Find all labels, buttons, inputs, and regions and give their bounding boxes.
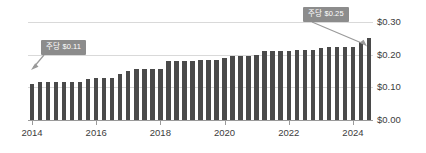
bar — [78, 82, 82, 120]
bar — [102, 78, 106, 120]
x-axis-tick-mark — [32, 120, 33, 125]
bar — [262, 51, 266, 120]
bar — [206, 60, 210, 120]
x-axis-tick-mark — [289, 120, 290, 125]
bar — [319, 48, 323, 120]
y-axis-tick-label: $0.00 — [377, 115, 401, 125]
bar — [94, 78, 98, 120]
x-axis-tick-mark — [96, 120, 97, 125]
bar — [198, 60, 202, 120]
bar — [303, 50, 307, 120]
y-axis: $0.00$0.10$0.20$0.30 — [377, 22, 425, 120]
bar — [174, 61, 178, 120]
bar — [190, 61, 194, 120]
bar — [230, 56, 234, 120]
x-axis-tick-label: 2018 — [150, 128, 171, 138]
bar — [287, 51, 291, 120]
x-axis-line — [28, 120, 373, 121]
y-axis-tick-label: $0.20 — [377, 50, 401, 60]
x-axis-tick-mark — [353, 120, 354, 125]
dividend-per-share-bar-chart: $0.00$0.10$0.20$0.30 2014201620182020202… — [0, 0, 426, 153]
bar — [238, 56, 242, 120]
plot-area — [28, 22, 373, 120]
x-axis-tick-mark — [160, 120, 161, 125]
bar — [343, 47, 347, 121]
x-axis-tick-label: 2016 — [86, 128, 107, 138]
x-axis-tick-label: 2024 — [342, 128, 363, 138]
bar — [214, 60, 218, 120]
bar — [30, 84, 34, 120]
bar — [54, 82, 58, 120]
bar — [110, 78, 114, 120]
bar — [158, 69, 162, 120]
bar — [327, 47, 331, 121]
bar — [270, 51, 274, 120]
callout-left: 주당 $0.11 — [41, 40, 86, 55]
bar — [246, 56, 250, 120]
bar — [359, 42, 363, 120]
bar — [134, 69, 138, 120]
x-axis-tick-label: 2014 — [21, 128, 42, 138]
bar — [222, 58, 226, 120]
bar — [182, 61, 186, 120]
y-axis-tick-label: $0.30 — [377, 17, 401, 27]
bar — [367, 38, 371, 120]
bar — [142, 69, 146, 120]
bar — [278, 51, 282, 120]
bar — [38, 82, 42, 120]
bars-layer — [28, 22, 373, 120]
bar — [70, 82, 74, 120]
callout-right: 주당 $0.25 — [303, 7, 349, 22]
bar — [86, 79, 90, 120]
bar — [335, 47, 339, 121]
x-axis-tick-label: 2020 — [214, 128, 235, 138]
y-axis-tick-label: $0.10 — [377, 83, 401, 93]
bar — [126, 71, 130, 120]
bar — [311, 50, 315, 120]
bar — [295, 50, 299, 120]
bar — [254, 55, 258, 120]
bar — [166, 61, 170, 120]
bar — [62, 82, 66, 120]
x-axis-tick-mark — [225, 120, 226, 125]
bar — [150, 69, 154, 120]
bar — [46, 82, 50, 120]
x-axis-tick-label: 2022 — [278, 128, 299, 138]
bar — [351, 47, 355, 121]
bar — [118, 74, 122, 120]
